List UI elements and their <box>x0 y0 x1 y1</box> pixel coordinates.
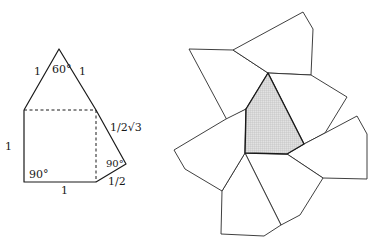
face-dimension-figure: 60° 1 1 1 90° 1 90° 1/2√3 1/2 <box>5 49 142 197</box>
square-bottom-label: 1 <box>61 184 68 197</box>
triangle-right-side-label: 1 <box>79 65 86 78</box>
polyhedron-net <box>174 12 367 236</box>
right-short-side-label: 1/2 <box>108 175 126 188</box>
square-left-side-label: 1 <box>5 140 12 153</box>
bottom-left-angle-label: 90° <box>29 168 49 181</box>
right-angle-label: 90° <box>106 158 124 169</box>
right-long-side-label: 1/2√3 <box>110 121 142 134</box>
diagram-canvas: 60° 1 1 1 90° 1 90° 1/2√3 1/2 <box>0 0 385 249</box>
apex-angle-label: 60° <box>52 63 72 76</box>
triangle-left-side-label: 1 <box>34 65 41 78</box>
